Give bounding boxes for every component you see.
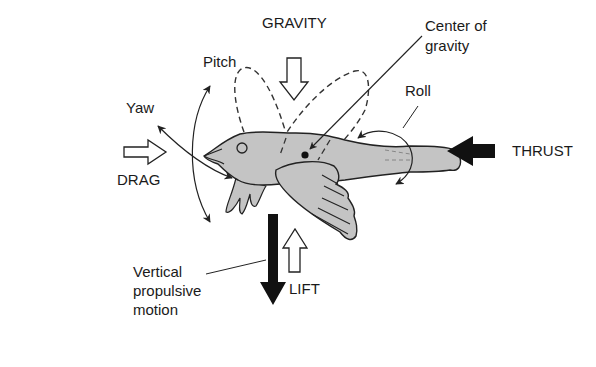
yaw-label: Yaw [126, 99, 154, 117]
thrust-label: THRUST [512, 142, 573, 160]
vertical-propulsive-arrow [260, 214, 286, 305]
pitch-label: Pitch [203, 53, 236, 71]
flight-forces-diagram [0, 0, 596, 367]
drag-label: DRAG [117, 171, 160, 189]
lift-arrow [283, 229, 307, 272]
roll-label: Roll [405, 82, 431, 100]
vertical-propulsive-leader-line [206, 260, 266, 274]
lift-label: LIFT [289, 280, 320, 298]
roll-leader-line [403, 106, 418, 128]
center-of-gravity-dot [301, 151, 308, 158]
gravity-arrow [280, 58, 308, 100]
gravity-label: GRAVITY [262, 14, 327, 32]
center-of-gravity-label: Center of gravity [425, 16, 487, 56]
drag-arrow [124, 140, 166, 164]
dashed-wing-loop-left [235, 68, 285, 133]
vertical-propulsive-motion-label: Vertical propulsive motion [133, 262, 201, 319]
